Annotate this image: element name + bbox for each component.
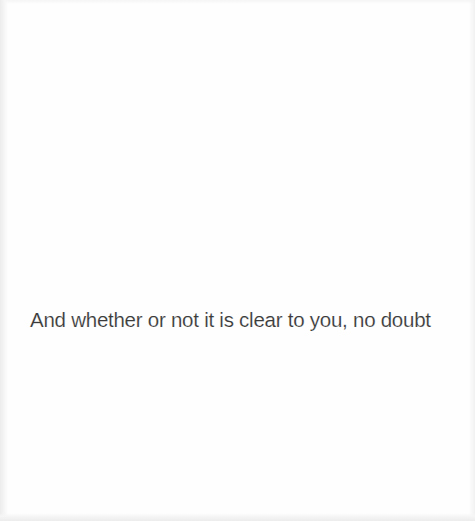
page-edge-shadow-left [0, 0, 8, 521]
page-edge-shadow-bottom [0, 513, 475, 521]
slide-page: And whether or not it is clear to you, n… [0, 0, 475, 521]
caption-text: And whether or not it is clear to you, n… [30, 307, 470, 333]
page-edge-shadow-top [0, 0, 475, 4]
page-edge-shadow-right [469, 0, 475, 521]
